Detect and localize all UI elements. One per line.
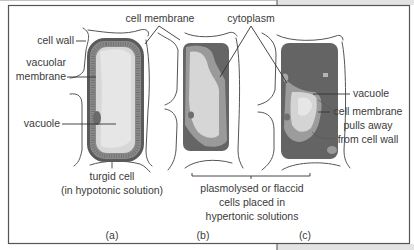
caption-a-line2: (in hypotonic solution) (61, 184, 163, 196)
panel-label-b: (b) (197, 229, 210, 241)
panel-label-a: (a) (106, 229, 119, 241)
label-membrane-pulls-3: from cell wall (338, 133, 399, 145)
panel-label-c: (c) (299, 229, 311, 241)
label-vacuolar-membrane-1: vacuolar (26, 56, 66, 68)
label-vacuole-left: vacuole (24, 117, 60, 129)
label-vacuolar-membrane-2: membrane (16, 70, 66, 82)
label-membrane-pulls-1: cell membrane (334, 105, 403, 117)
label-membrane-pulls-2: pulls away (343, 119, 393, 131)
cell-c-nucleus (284, 114, 290, 121)
caption-a-line1: turgid cell (90, 170, 135, 182)
plant-cell-osmosis-diagram: cell membrane cytoplasm cell wall vacuol… (0, 0, 414, 250)
caption-bc-line2: cells placed in (219, 196, 285, 208)
frame-gray-bottom (277, 244, 414, 250)
label-cell-wall: cell wall (37, 34, 74, 46)
label-cell-membrane-top: cell membrane (126, 12, 195, 24)
caption-bc-line1: plasmolysed or flaccid (200, 182, 303, 194)
cell-b-nucleus (188, 112, 194, 119)
cell-a-nucleus (93, 111, 101, 125)
frame-gray-top (277, 0, 414, 5)
label-cytoplasm: cytoplasm (227, 12, 275, 24)
caption-bc-line3: hypertonic solutions (206, 210, 299, 222)
label-vacuole-right: vacuole (353, 87, 389, 99)
